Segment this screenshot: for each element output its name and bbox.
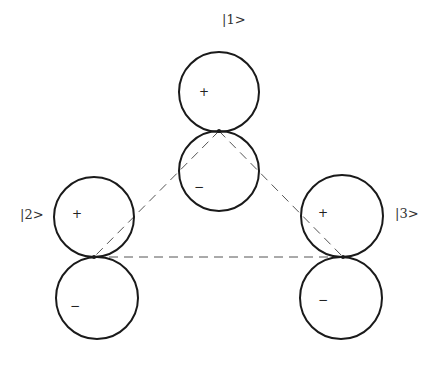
node-point-2 [92,255,96,259]
plus-sign-3: + [318,206,328,220]
plus-sign-1: + [199,85,209,99]
positive-lobe-1 [179,52,259,132]
state-label-1: |1> [222,12,246,27]
state-label-2: |2> [20,207,44,222]
dashed-connections [94,131,343,257]
state-label-3: |3> [395,206,419,221]
connection-line-1-2 [94,131,219,257]
state-3: +−|3> [300,175,419,339]
state-2: +−|2> [20,177,138,339]
node-point-3 [341,255,345,259]
orbital-diagram: +−|1>+−|2>+−|3> [0,0,436,369]
minus-sign-2: − [70,299,80,313]
plus-sign-2: + [72,207,82,221]
state-1: +−|1> [179,12,259,211]
negative-lobe-2 [56,257,138,339]
connection-line-1-3 [219,131,343,257]
negative-lobe-1 [179,131,259,211]
positive-lobe-2 [54,177,134,257]
minus-sign-1: − [194,180,204,194]
minus-sign-3: − [318,293,328,307]
basis-states: +−|1>+−|2>+−|3> [20,12,419,339]
node-point-1 [217,129,221,133]
positive-lobe-3 [301,175,383,257]
negative-lobe-3 [300,257,382,339]
